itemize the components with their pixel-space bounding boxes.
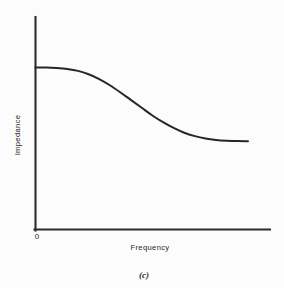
y-axis-label: Impedance [14, 115, 22, 156]
impedance-curve [36, 67, 249, 141]
x-axis-label: Frequency [130, 244, 169, 252]
figure-container: Impedance Frequency 0 (c) [0, 0, 284, 288]
origin-tick-label: 0 [35, 233, 39, 241]
figure-caption: (c) [139, 271, 149, 280]
